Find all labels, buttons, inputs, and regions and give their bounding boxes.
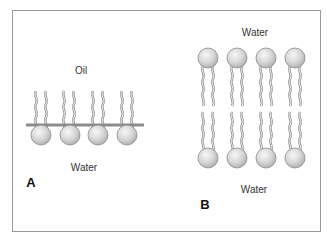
- panel-b-bottom-tails: [202, 112, 301, 152]
- lipid-diagram: [0, 0, 327, 241]
- panel-a-top-medium-label: Oil: [75, 65, 87, 76]
- panel-b-label: B: [200, 197, 209, 212]
- panel-b-top-medium-label: Water: [242, 27, 268, 38]
- panel-b-bottom-medium-label: Water: [241, 184, 267, 195]
- panel-a-monolayer: [26, 91, 144, 145]
- panel-a-label: A: [26, 175, 35, 190]
- panel-b-bottom-heads: [198, 148, 305, 168]
- panel-a-heads: [31, 125, 137, 145]
- panel-b-bilayer: [198, 48, 305, 168]
- panel-a-bottom-medium-label: Water: [71, 162, 97, 173]
- panel-b-top-tails: [202, 66, 301, 106]
- panel-b-top-heads: [198, 48, 305, 68]
